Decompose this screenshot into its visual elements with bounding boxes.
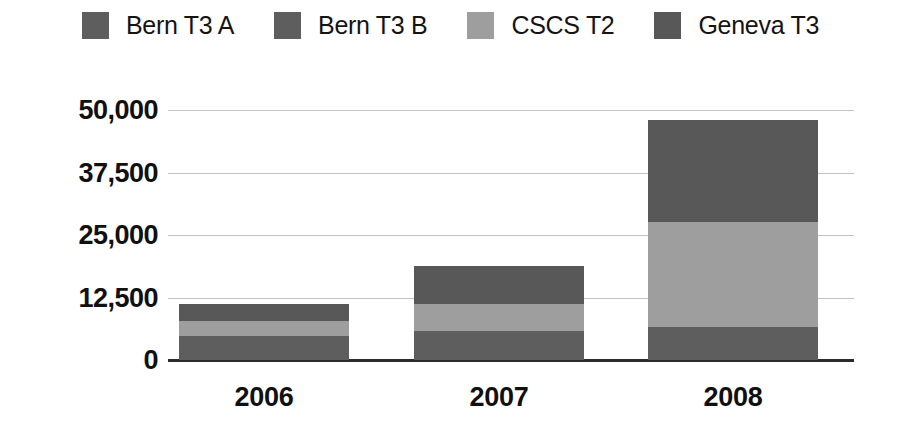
bar-segment-bern-t3-a[interactable] [648,344,818,361]
bar-segment-bern-t3-a[interactable] [179,348,349,360]
x-tick-label-2008: 2008 [648,382,818,413]
bar-segment-cscs-t2[interactable] [179,321,349,336]
bar-group-2008[interactable] [648,120,818,360]
bar-segment-bern-t3-b[interactable] [648,327,818,344]
bar-group-2007[interactable] [414,266,584,360]
plot-area: 012,50025,00037,50050,000 200620072008 [0,0,907,439]
bar-segment-geneva-t3[interactable] [648,120,818,222]
bar-stack [414,266,584,360]
stacked-bar-chart: Bern T3 A Bern T3 B CSCS T2 Geneva T3 01… [0,0,907,439]
bar-segment-cscs-t2[interactable] [414,304,584,331]
bar-group-2006[interactable] [179,304,349,360]
bars-layer: 200620072008 [0,0,907,439]
x-tick-label-2006: 2006 [179,382,349,413]
bar-segment-geneva-t3[interactable] [414,266,584,304]
bar-stack [648,120,818,360]
bar-segment-geneva-t3[interactable] [179,304,349,321]
bar-segment-bern-t3-b[interactable] [414,331,584,346]
bar-segment-bern-t3-b[interactable] [179,336,349,348]
x-tick-label-2007: 2007 [414,382,584,413]
bar-segment-bern-t3-a[interactable] [414,346,584,361]
bar-stack [179,304,349,360]
bar-segment-cscs-t2[interactable] [648,222,818,327]
